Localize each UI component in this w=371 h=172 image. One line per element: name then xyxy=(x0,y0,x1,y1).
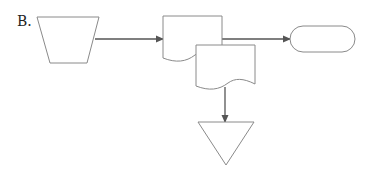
manual-operation-trapezoid xyxy=(37,17,99,63)
flowchart-canvas xyxy=(0,0,371,172)
document-shape-2 xyxy=(196,45,255,89)
offline-storage-triangle xyxy=(198,122,254,165)
terminator-shape xyxy=(290,26,355,52)
